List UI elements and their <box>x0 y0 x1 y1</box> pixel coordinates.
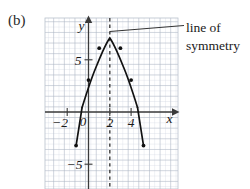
annotation-text-line1: line of <box>186 19 250 37</box>
data-point <box>97 46 101 50</box>
x-tick-label-2: 2 <box>106 115 113 130</box>
annotation-text-line2: symmetry <box>186 37 250 55</box>
data-point <box>119 46 123 50</box>
x-tick-label-4: 4 <box>128 115 135 130</box>
y-axis-label: y <box>77 18 85 33</box>
grid <box>45 18 178 189</box>
figure-container: (b) <box>0 0 250 189</box>
y-tick-label-5: 5 <box>75 53 82 68</box>
x-axis-label: x <box>166 111 173 126</box>
x-tick-label-neg2: −2 <box>52 115 68 130</box>
data-point <box>129 78 133 82</box>
y-tick-label-neg5: −5 <box>67 157 83 172</box>
data-point <box>142 144 146 148</box>
data-point <box>87 78 91 82</box>
annotation-line-of-symmetry: line of symmetry <box>186 19 250 55</box>
x-tick-label-0: 0 <box>80 114 87 129</box>
data-point <box>74 144 78 148</box>
